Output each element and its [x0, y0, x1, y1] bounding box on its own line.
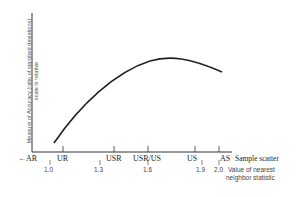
x-axis-lower-title-line2: neighbor statistic — [226, 175, 275, 182]
tick-label-usr: USR — [106, 155, 122, 163]
tick-value-2-0: 2.0 — [214, 167, 223, 174]
x-axis-lower-title-line1: Value of nearest — [228, 167, 275, 174]
tick-value-1-9: 1.9 — [196, 167, 205, 174]
tick-label-as: AS — [220, 155, 230, 163]
y-axis-label-line1: Measure of Accuracy (ratio of standard d… — [26, 6, 33, 156]
upper-ticks — [63, 146, 219, 152]
tick-value-1-6: 1.6 — [143, 167, 152, 174]
x-axis-upper-title: Sample scatter — [235, 155, 279, 163]
y-axis-label-line2: scale is relative — [33, 6, 40, 156]
tick-label-usr-us: USR/US — [133, 155, 161, 163]
accuracy-curve — [54, 58, 222, 143]
tick-value-1-3: 1.3 — [94, 167, 103, 174]
tick-label-us: US — [187, 155, 197, 163]
tick-value-1-0: 1.0 — [44, 167, 53, 174]
tick-label-ur: UR — [57, 155, 68, 163]
ar-arrow-label: ←AR — [18, 155, 37, 163]
y-axis-label: Measure of Accuracy (ratio of standard d… — [26, 6, 40, 156]
